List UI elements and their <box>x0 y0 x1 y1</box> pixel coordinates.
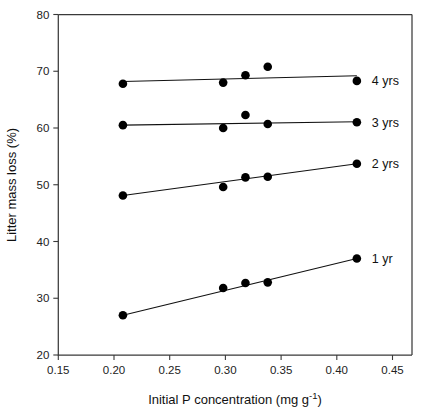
x-tick-label: 0.40 <box>326 364 348 376</box>
y-tick-label: 30 <box>37 292 50 304</box>
x-tick-label: 0.25 <box>159 364 181 376</box>
data-point <box>219 284 228 293</box>
data-point <box>241 173 250 182</box>
regression-line-4-yrs <box>123 76 357 82</box>
series-label-4-yrs: 4 yrs <box>372 74 399 88</box>
regression-line-2-yrs <box>123 164 357 196</box>
x-tick-label: 0.15 <box>47 364 69 376</box>
y-tick-label: 80 <box>37 9 50 21</box>
regression-lines <box>123 76 357 315</box>
x-tick-label: 0.20 <box>103 364 125 376</box>
data-point <box>353 77 362 86</box>
y-axis-tick-labels: 20304050607080 <box>37 9 50 362</box>
x-tick-label: 0.45 <box>381 364 403 376</box>
y-tick-label: 70 <box>37 65 50 77</box>
data-point <box>241 111 250 120</box>
y-tick-label: 40 <box>37 236 50 248</box>
chart-canvas: 20304050607080 0.150.200.250.300.350.400… <box>0 0 423 415</box>
y-tick-label: 20 <box>37 349 50 361</box>
data-point <box>263 120 272 129</box>
x-axis-title: Initial P concentration (mg g-1) <box>148 390 322 407</box>
scatter-chart: 20304050607080 0.150.200.250.300.350.400… <box>0 0 423 415</box>
data-point <box>119 79 128 88</box>
x-axis-tick-labels: 0.150.200.250.300.350.400.45 <box>47 364 404 376</box>
x-axis-ticks <box>58 355 392 360</box>
data-point <box>263 278 272 287</box>
y-axis-title: Litter mass loss (%) <box>4 128 19 242</box>
y-tick-label: 50 <box>37 179 50 191</box>
y-tick-label: 60 <box>37 122 50 134</box>
regression-line-1-yr <box>123 259 357 316</box>
data-point <box>353 254 362 263</box>
axis-frame <box>58 15 412 356</box>
series-label-2-yrs: 2 yrs <box>372 157 399 171</box>
data-point <box>119 121 128 130</box>
data-point <box>353 159 362 168</box>
data-point <box>241 71 250 80</box>
x-axis-title-main: Initial P concentration (mg g <box>148 392 309 407</box>
x-tick-label: 0.35 <box>270 364 292 376</box>
regression-line-3-yrs <box>123 122 357 125</box>
data-point <box>241 279 250 288</box>
data-point <box>219 124 228 133</box>
x-tick-label: 0.30 <box>214 364 236 376</box>
data-point <box>119 191 128 200</box>
data-point <box>263 173 272 182</box>
data-point <box>353 118 362 127</box>
data-point <box>219 78 228 87</box>
series-labels: 4 yrs3 yrs2 yrs1 yr <box>372 74 399 266</box>
data-point <box>219 183 228 192</box>
x-axis-title-superscript: -1 <box>309 390 317 401</box>
data-point <box>263 62 272 71</box>
data-point <box>119 311 128 320</box>
series-label-1-yr: 1 yr <box>372 252 393 266</box>
series-label-3-yrs: 3 yrs <box>372 116 399 130</box>
y-axis-ticks <box>53 15 58 356</box>
x-axis-title-tail: ) <box>318 392 322 407</box>
